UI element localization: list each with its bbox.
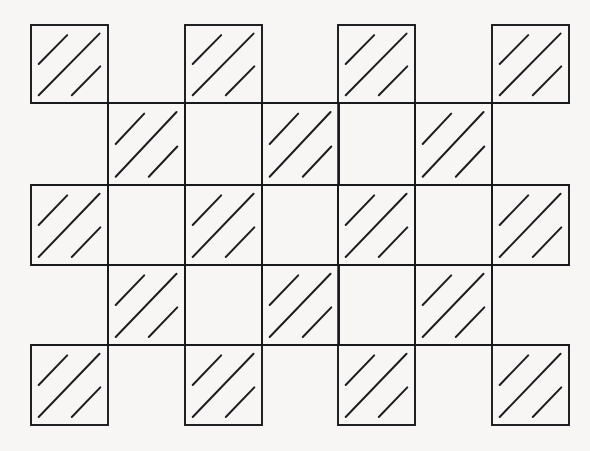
figure-root: Hatched checkerboard weave pattern A rec… <box>0 0 590 451</box>
hatched-checkerboard-diagram: Hatched checkerboard weave pattern A rec… <box>0 0 590 451</box>
